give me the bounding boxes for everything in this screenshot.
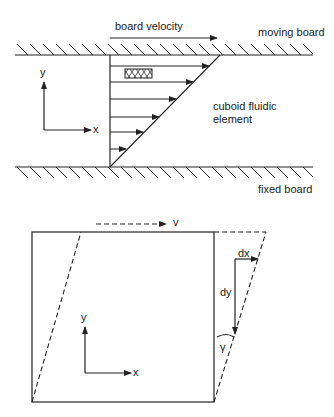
fixed-board bbox=[15, 167, 313, 178]
board-velocity-label: board velocity bbox=[115, 20, 183, 33]
bottom-axes bbox=[85, 327, 131, 373]
fixed-board-label: fixed board bbox=[258, 183, 312, 196]
bottom-axis-y-label: y bbox=[81, 311, 87, 324]
shear-flow-diagram bbox=[0, 0, 334, 417]
fluid-element-marker bbox=[125, 69, 152, 78]
dy-label: dy bbox=[220, 286, 232, 299]
shear-angle-label: γ bbox=[220, 341, 226, 354]
moving-board bbox=[15, 44, 313, 55]
dx-label: dx bbox=[238, 247, 250, 260]
element-label-line2: element bbox=[213, 113, 252, 126]
original-element-square bbox=[32, 232, 214, 402]
element-label-line1: cuboid fluidic bbox=[213, 100, 277, 113]
top-axis-x-label: x bbox=[93, 123, 99, 136]
bottom-axis-x-label: x bbox=[133, 366, 139, 379]
velocity-v-label: v bbox=[173, 216, 179, 229]
moving-board-label: moving board bbox=[258, 26, 325, 39]
top-axes bbox=[44, 82, 91, 130]
top-axis-y-label: y bbox=[40, 66, 46, 79]
sheared-element-outline bbox=[32, 232, 266, 402]
shear-angle-arc bbox=[217, 335, 234, 338]
